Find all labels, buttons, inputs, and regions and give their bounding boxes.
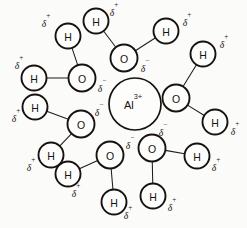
water-right-oxygen-label: O: [172, 93, 180, 105]
water-right-hydrogen-charge-1: δ+: [231, 120, 240, 137]
water-top-left-hydrogen-1-label: H: [30, 73, 38, 85]
water-bottom-center-oxygen-charge: δ−: [126, 134, 135, 151]
water-top-left-oxygen-label: O: [78, 73, 86, 85]
water-left-bond-1: [60, 134, 72, 146]
water-top-left-hydrogen-charge-0: δ+: [42, 12, 51, 29]
water-bottom-right-oxygen-label: O: [148, 143, 156, 155]
water-bottom-center-hydrogen-0-label: H: [64, 169, 72, 181]
water-bottom-right-bond-0: [165, 150, 184, 153]
water-bottom-right-oxygen-charge: δ−: [159, 121, 168, 138]
water-left-hydrogen-charge-0: δ+: [12, 107, 21, 124]
water-top-left-hydrogen-0-label: H: [64, 31, 72, 43]
water-left-oxygen-label: O: [77, 119, 85, 131]
water-bottom-center-hydrogen-1-label: H: [110, 197, 118, 209]
water-left-hydrogen-1-label: H: [47, 150, 55, 162]
water-bottom-right-hydrogen-0-label: H: [193, 151, 201, 163]
water-right-hydrogen-charge-0: δ+: [220, 33, 229, 50]
water-top-center-bond-0: [104, 31, 116, 47]
diagram-canvas: OHHOHHOHHOHHOHHOHH δ−δ+δ+δ−δ+δ+δ−δ+δ+δ−δ…: [0, 0, 247, 228]
water-bottom-center-bond-0: [79, 161, 97, 169]
water-left-hydrogen-0-label: H: [31, 102, 39, 114]
water-right-bond-1: [188, 105, 205, 115]
water-top-left-hydrogen-charge-1: δ+: [15, 54, 24, 71]
hydrated-ion-diagram: OHHOHHOHHOHHOHHOHH δ−δ+δ+δ−δ+δ+δ−δ+δ+δ−δ…: [0, 0, 247, 228]
water-bottom-right-hydrogen-charge-0: δ+: [212, 156, 221, 173]
water-right-hydrogen-1-label: H: [211, 117, 219, 129]
water-top-center-oxygen-label: O: [120, 53, 128, 65]
water-left-hydrogen-charge-1: δ+: [27, 156, 36, 173]
central-ion-circle: [109, 78, 161, 130]
water-top-center-hydrogen-charge-0: δ+: [110, 1, 119, 18]
water-bottom-right-hydrogen-1-label: H: [149, 191, 157, 203]
central-ion-group: Al3+: [108, 77, 162, 131]
water-right-hydrogen-0-label: H: [199, 49, 207, 61]
water-top-center-bond-1: [135, 38, 155, 51]
water-right-bond-0: [183, 65, 196, 87]
water-bottom-center-bond-1: [111, 168, 113, 189]
water-top-center-hydrogen-0-label: H: [92, 16, 100, 28]
water-bottom-center-oxygen-label: O: [106, 150, 114, 162]
water-top-left-bond-0: [72, 48, 78, 65]
water-left-oxygen-charge: δ−: [95, 101, 104, 118]
water-left-bond-0: [47, 111, 69, 119]
water-top-center-hydrogen-charge-1: δ+: [183, 11, 192, 28]
water-top-left-oxygen-charge: δ−: [98, 77, 107, 94]
water-bottom-right-hydrogen-charge-1: δ+: [168, 196, 177, 213]
water-top-center-oxygen-charge: δ−: [141, 57, 150, 74]
water-top-center-hydrogen-1-label: H: [162, 26, 170, 38]
